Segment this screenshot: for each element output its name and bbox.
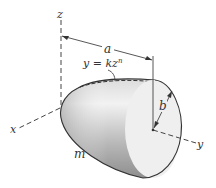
svg-text:y = kzn: y = kzn xyxy=(82,57,123,70)
mass-label: m xyxy=(74,147,85,161)
curve-equation: y = kzn xyxy=(82,57,123,81)
z-axis-label: z xyxy=(56,8,63,21)
x-axis xyxy=(19,108,60,128)
dimension-a-label: a xyxy=(104,42,111,56)
x-axis-label: x xyxy=(10,123,17,136)
base-center-point xyxy=(152,129,155,132)
curve-equation-text: y = kz xyxy=(82,57,118,70)
y-axis-label: y xyxy=(196,138,204,151)
dimension-b-label: b xyxy=(159,99,167,113)
curve-equation-exponent: n xyxy=(118,57,123,65)
solid-of-revolution-diagram: z x y a b y = kzn xyxy=(0,0,216,188)
